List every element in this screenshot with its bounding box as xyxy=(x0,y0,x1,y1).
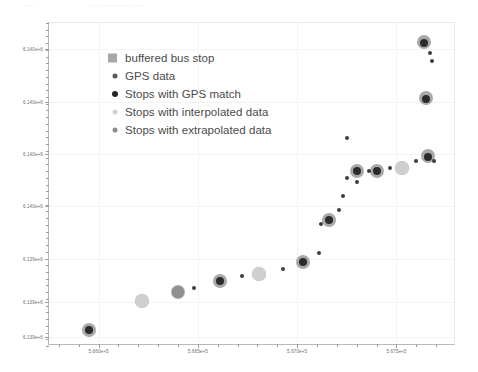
y-tick-minor xyxy=(46,198,49,199)
y-tick-minor xyxy=(46,312,49,313)
y-tick-label: 6.139e+6 xyxy=(23,256,43,261)
data-point xyxy=(337,208,341,212)
y-tick-label: 6.140e+6 xyxy=(23,47,43,52)
y-tick-minor xyxy=(46,211,49,212)
data-point xyxy=(395,161,409,175)
y-tick-minor xyxy=(46,104,49,105)
data-point xyxy=(281,267,285,271)
y-tick-minor xyxy=(46,23,49,24)
y-tick-minor xyxy=(46,97,49,98)
gridline-horizontal xyxy=(49,154,454,155)
gridline-horizontal xyxy=(49,259,454,260)
legend-label: buffered bus stop xyxy=(125,52,215,64)
x-tick-minor xyxy=(118,344,119,347)
y-tick-label: 6.139e+6 xyxy=(23,300,43,305)
y-tick-minor xyxy=(46,178,49,179)
gridline-horizontal xyxy=(49,337,454,338)
plot-legend: buffered bus stopGPS dataStops with GPS … xyxy=(105,49,303,139)
y-tick-minor xyxy=(46,36,49,37)
y-tick-minor xyxy=(46,63,49,64)
y-tick-minor xyxy=(46,306,49,307)
data-point xyxy=(135,294,149,308)
y-tick-minor xyxy=(46,205,49,206)
x-tick-major xyxy=(198,344,199,348)
x-tick-major xyxy=(297,344,298,348)
y-tick-minor xyxy=(46,333,49,334)
y-tick-minor xyxy=(46,131,49,132)
plot-axes-area: 6.140e+66.140e+66.140e+66.140e+66.139e+6… xyxy=(48,22,455,345)
y-tick-label: 6.140e+6 xyxy=(23,151,43,156)
legend-entry: GPS data xyxy=(105,67,303,85)
data-point xyxy=(430,59,434,63)
y-tick-minor xyxy=(46,57,49,58)
x-tick-minor xyxy=(218,344,219,347)
legend-label: Stops with interpolated data xyxy=(125,106,268,118)
y-tick-minor xyxy=(46,272,49,273)
square-swatch-icon xyxy=(108,54,117,63)
gridline-vertical xyxy=(99,23,100,344)
y-tick-minor xyxy=(46,299,49,300)
y-tick-minor xyxy=(46,50,49,51)
y-tick-minor xyxy=(46,30,49,31)
x-tick-minor xyxy=(436,344,437,347)
x-tick-major xyxy=(396,344,397,348)
x-tick-minor xyxy=(59,344,60,347)
y-tick-minor xyxy=(46,110,49,111)
x-tick-minor xyxy=(257,344,258,347)
x-tick-minor xyxy=(337,344,338,347)
data-point xyxy=(299,258,307,266)
legend-marker xyxy=(105,85,125,103)
legend-marker xyxy=(105,121,125,139)
data-point xyxy=(325,216,333,224)
y-tick-minor xyxy=(46,117,49,118)
x-tick-minor xyxy=(238,344,239,347)
y-tick-minor xyxy=(46,151,49,152)
x-tick-label: 5.660e+5 xyxy=(89,349,109,354)
data-point xyxy=(317,251,321,255)
legend-label: GPS data xyxy=(125,70,175,82)
data-point xyxy=(341,194,345,198)
data-point xyxy=(192,286,196,290)
legend-entry: Stops with extrapolated data xyxy=(105,121,303,139)
data-point xyxy=(345,136,349,140)
data-point xyxy=(373,167,381,175)
data-point xyxy=(422,95,430,103)
y-tick-minor xyxy=(46,191,49,192)
y-tick-minor xyxy=(46,245,49,246)
y-tick-label: 6.140e+6 xyxy=(23,204,43,209)
y-tick-minor xyxy=(46,252,49,253)
y-tick-minor xyxy=(46,164,49,165)
x-tick-minor xyxy=(416,344,417,347)
gridline-vertical xyxy=(396,23,397,344)
data-point xyxy=(319,222,323,226)
y-tick-minor xyxy=(46,292,49,293)
y-tick-major xyxy=(45,337,49,338)
x-tick-label: 5.670e+5 xyxy=(287,349,307,354)
data-point xyxy=(216,277,224,285)
y-tick-minor xyxy=(46,279,49,280)
x-tick-minor xyxy=(138,344,139,347)
data-point xyxy=(252,267,266,281)
y-tick-minor xyxy=(46,43,49,44)
y-tick-major xyxy=(45,102,49,103)
y-tick-minor xyxy=(46,124,49,125)
scatter-plot-figure: 6.140e+66.140e+66.140e+66.140e+66.139e+6… xyxy=(0,0,478,372)
y-tick-minor xyxy=(46,259,49,260)
legend-label: Stops with extrapolated data xyxy=(125,124,272,136)
y-tick-minor xyxy=(46,137,49,138)
x-tick-major xyxy=(99,344,100,348)
data-point xyxy=(420,39,428,47)
y-tick-minor xyxy=(46,90,49,91)
data-point xyxy=(85,326,93,334)
y-tick-minor xyxy=(46,238,49,239)
y-tick-minor xyxy=(46,326,49,327)
y-tick-major xyxy=(45,302,49,303)
y-tick-minor xyxy=(46,77,49,78)
circle-dot-icon xyxy=(113,110,118,115)
y-tick-minor xyxy=(46,285,49,286)
x-tick-minor xyxy=(277,344,278,347)
x-tick-minor xyxy=(357,344,358,347)
gridline-horizontal xyxy=(49,206,454,207)
y-tick-minor xyxy=(46,346,49,347)
y-tick-minor xyxy=(46,232,49,233)
